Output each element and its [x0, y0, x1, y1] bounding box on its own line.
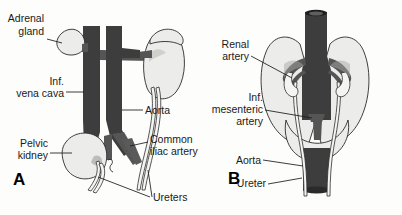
label-pelvic-kidney-line1: Pelvic: [20, 137, 48, 149]
panel-letter-a: A: [13, 170, 25, 189]
label-aorta-a: Aorta: [145, 104, 170, 116]
label-inf-mesenteric-line1: Inf.: [248, 91, 263, 103]
label-adrenal-gland-line1: Adrenal: [8, 12, 44, 24]
label-ureters: Ureters: [153, 191, 187, 203]
label-common-iliac-line1: Common: [150, 133, 193, 145]
panel-a-illustration: Adrenal gland Inf. vena cava Pelvic kidn…: [8, 12, 199, 203]
leader-aorta-b: [263, 160, 303, 166]
label-aorta-b: Aorta: [236, 154, 261, 166]
label-ureter-b: Ureter: [237, 177, 267, 189]
aorta-lumen-inner: [309, 12, 323, 16]
aorta-vessel-b: [302, 12, 331, 120]
label-renal-artery-line1: Renal: [222, 38, 249, 50]
renal-vessel-right: [140, 50, 152, 58]
label-pelvic-kidney-line2: kidney: [18, 149, 49, 161]
vessel-curl-detail: [108, 159, 113, 172]
label-inf-vena-cava-line2: vena cava: [16, 87, 64, 99]
label-common-iliac-line2: iliac artery: [150, 145, 199, 157]
label-renal-artery-line2: artery: [222, 50, 250, 62]
anatomical-figure: Adrenal gland Inf. vena cava Pelvic kidn…: [0, 0, 402, 215]
label-inf-mesenteric-line2: mesenteric: [212, 103, 263, 115]
leader-ureters-2: [148, 170, 152, 197]
adrenal-gland-stalk: [82, 43, 88, 52]
leader-ureter-b: [268, 178, 302, 184]
label-adrenal-gland-line2: gland: [18, 25, 44, 37]
adrenal-gland-organ: [57, 29, 85, 55]
panel-b-illustration: Renal artery Inf. mesenteric artery Aort…: [212, 10, 369, 196]
label-inf-vena-cava-line1: Inf.: [49, 75, 64, 87]
panel-letter-b: B: [228, 169, 240, 188]
label-inf-mesenteric-line3: artery: [236, 115, 264, 127]
inferior-mesenteric-artery-trunk: [313, 120, 322, 140]
